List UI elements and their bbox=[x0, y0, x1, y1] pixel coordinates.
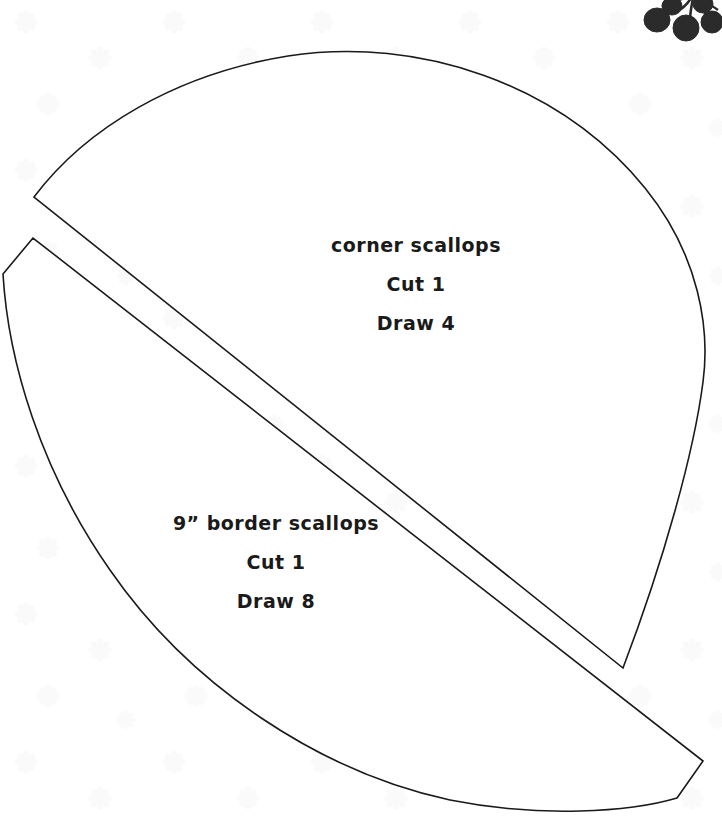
corner-scallops-cut: Cut 1 bbox=[286, 275, 546, 294]
border-scallops-title: 9” border scallops bbox=[141, 514, 411, 533]
berry-cluster-graphic bbox=[644, 0, 722, 41]
border-scallops-cut: Cut 1 bbox=[141, 553, 411, 572]
corner-scallops-title: corner scallops bbox=[286, 236, 546, 255]
template-outlines bbox=[0, 0, 722, 826]
corner-scallops-label: corner scallops Cut 1 Draw 4 bbox=[286, 236, 546, 333]
corner-scallops-draw: Draw 4 bbox=[286, 314, 546, 333]
pattern-sheet: corner scallops Cut 1 Draw 4 9” border s… bbox=[0, 0, 722, 826]
border-scallops-draw: Draw 8 bbox=[141, 592, 411, 611]
border-scallops-label: 9” border scallops Cut 1 Draw 8 bbox=[141, 514, 411, 611]
